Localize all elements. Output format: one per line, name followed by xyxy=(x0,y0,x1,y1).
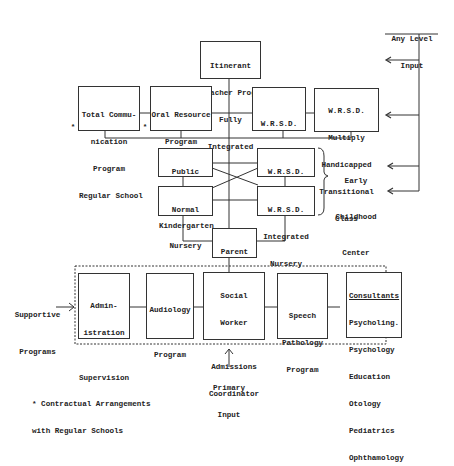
consultant-item: Pediatrics xyxy=(349,427,399,436)
label-line: Pathology xyxy=(278,339,327,348)
label-line: Early xyxy=(332,177,380,186)
label-line: Childhood xyxy=(332,213,380,222)
consultant-item: Psychology xyxy=(349,346,399,355)
label-line: Admin- xyxy=(79,302,129,311)
early-childhood-center-label: Early Childhood Center xyxy=(332,159,380,267)
label-line: Worker xyxy=(204,319,264,328)
wrsd-classes-box: W.R.S.D. Classes xyxy=(252,87,306,131)
label-line: Program xyxy=(278,366,327,375)
label-line: with Regular Schools xyxy=(32,427,150,436)
label-line: Oral Resource xyxy=(151,111,211,120)
label-line: Input xyxy=(385,62,439,71)
speech-pathology-program-box: Speech Pathology Program xyxy=(277,273,328,339)
label-line: Programs xyxy=(10,348,65,357)
label-line: Regular School xyxy=(79,192,139,201)
label-line: Itinerant xyxy=(201,62,260,71)
label-line: Supportive xyxy=(10,311,65,320)
consultant-item: Education xyxy=(349,373,399,382)
total-communication-box: Total Commu- nication Program Regular Sc… xyxy=(78,86,140,131)
label-line: Primary xyxy=(205,384,253,393)
label-line: Nursery xyxy=(258,260,314,269)
label-line: Total Commu- xyxy=(79,111,139,120)
label-line: istration xyxy=(79,329,129,338)
label-line: Program xyxy=(147,351,193,360)
itinerant-teacher-box: Itinerant Teacher Prog. Fully Integrated xyxy=(200,41,261,79)
label-line: Public xyxy=(159,168,212,177)
label-line: Program xyxy=(79,165,139,174)
label-line: Nursery xyxy=(159,242,212,251)
label-line: * Contractual Arrangements xyxy=(32,400,150,409)
wrsd-integrated-nursery-box: W.R.S.D. Integrated Nursery xyxy=(257,186,315,216)
label-line: Parent xyxy=(213,248,256,257)
label-line: Program xyxy=(151,138,211,147)
label-line: Multiply xyxy=(315,134,378,143)
public-school-kindergarten-box: Public School Kindergarten xyxy=(158,148,213,177)
consultant-item: Ophthamology xyxy=(349,454,399,463)
parent-infant-program-box: Parent Infant Program xyxy=(212,228,257,258)
label-line: Speech xyxy=(278,312,327,321)
wrsd-kindergarten-box: W.R.S.D. Kindergarten xyxy=(257,148,315,177)
label-line: Social xyxy=(204,292,264,301)
label-line: Any Level xyxy=(385,35,439,44)
primary-input-label: Primary Input xyxy=(205,366,253,429)
label-line: W.R.S.D. xyxy=(253,120,305,129)
normal-nursery-box: Normal Nursery xyxy=(158,186,213,216)
consultant-item: Psycholing. xyxy=(349,319,399,328)
label-line: Integrated xyxy=(258,233,314,242)
label-line: W.R.S.D. xyxy=(315,107,378,116)
administration-supervision-box: Admin- istration Supervision xyxy=(78,273,130,339)
any-level-input-label: Any Level Input xyxy=(385,17,439,80)
label-line: nication xyxy=(79,138,139,147)
label-line: Normal xyxy=(159,206,212,215)
label-line: W.R.S.D. xyxy=(258,206,314,215)
label-line: Center xyxy=(332,249,380,258)
consultants-title: Consultants xyxy=(349,292,399,301)
footnote: * Contractual Arrangements with Regular … xyxy=(32,382,150,445)
consultant-item: Otology xyxy=(349,400,399,409)
social-worker-admissions-box: Social Worker Admissions Coordinator xyxy=(203,272,265,340)
supportive-programs-label: Supportive Programs xyxy=(10,293,65,366)
wrsd-multiply-handicapped-box: W.R.S.D. Multiply Handicapped Transition… xyxy=(314,88,379,132)
label-line: Audiology xyxy=(147,306,193,315)
asterisk-mark: * xyxy=(142,123,148,132)
label-line: Input xyxy=(205,411,253,420)
consultants-box: Consultants Psycholing. Psychology Educa… xyxy=(346,272,402,338)
asterisk-mark: * xyxy=(70,123,76,132)
audiology-program-box: Audiology Program xyxy=(146,273,194,339)
label-line: W.R.S.D. xyxy=(258,168,314,177)
oral-resource-box: Oral Resource Program Regular School xyxy=(150,86,212,131)
